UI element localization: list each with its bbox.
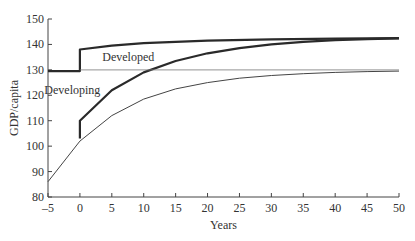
x-tick-label: 50 — [393, 201, 405, 215]
x-tick-label: 30 — [265, 201, 277, 215]
x-tick-label: 35 — [297, 201, 309, 215]
developed-label: Developed — [102, 50, 154, 64]
y-tick-label: 90 — [32, 165, 44, 179]
x-tick-label: 15 — [170, 201, 182, 215]
x-axis-label: Years — [210, 218, 237, 232]
x-tick-label: 0 — [77, 201, 83, 215]
x-tick-label: 45 — [361, 201, 373, 215]
series-line — [48, 38, 399, 71]
axes: 8090100110120130140150–50510152025303540… — [26, 12, 405, 215]
x-tick-label: 5 — [109, 201, 115, 215]
x-tick-label: 40 — [329, 201, 341, 215]
x-tick-label: 10 — [138, 201, 150, 215]
x-tick-label: 20 — [202, 201, 214, 215]
y-tick-label: 120 — [26, 88, 44, 102]
developing-label: Developing — [44, 83, 100, 97]
y-tick-label: 140 — [26, 37, 44, 51]
y-tick-label: 110 — [26, 114, 44, 128]
y-axis-label: GDP/capita — [7, 79, 21, 136]
x-tick-label: 25 — [233, 201, 245, 215]
series-lines — [48, 38, 399, 182]
y-tick-label: 100 — [26, 139, 44, 153]
series-line — [48, 71, 399, 182]
y-tick-label: 130 — [26, 63, 44, 77]
gdp-chart: 8090100110120130140150–50510152025303540… — [0, 0, 415, 241]
y-tick-label: 150 — [26, 12, 44, 26]
x-tick-label: –5 — [41, 201, 54, 215]
